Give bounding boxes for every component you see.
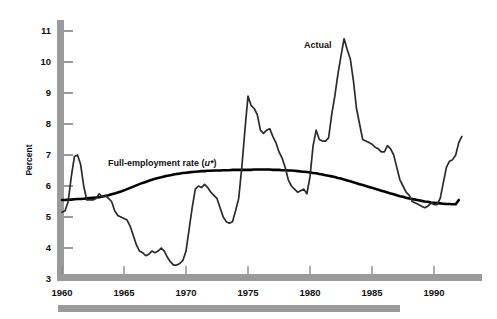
x-tick-label-1980: 1980 [299,287,320,298]
x-axis-bar [57,274,482,281]
chart-canvas: 11 10 9 8 7 6 5 4 3 1960 1965 1970 1975 … [0,0,497,319]
y-tick-label-10: 10 [40,56,51,67]
y-axis-bar [57,20,64,281]
x-tick-label-1985: 1985 [361,287,383,298]
y-tick-label-11: 11 [41,25,52,36]
chart-figure: 11 10 9 8 7 6 5 4 3 1960 1965 1970 1975 … [0,0,497,319]
y-tick-label-3: 3 [46,273,51,284]
y-tick-label-5: 5 [46,211,52,222]
y-tick-label-6: 6 [46,180,51,191]
full-employment-series-label: Full-employment rate (u*) [108,158,217,168]
y-tick-label-7: 7 [46,149,51,160]
y-tick-label-9: 9 [46,87,51,98]
full-employment-label-post: ) [214,158,217,168]
y-axis-title: Percent [24,144,34,175]
y-tick-label-8: 8 [46,118,51,129]
x-tick-label-1960: 1960 [51,287,72,298]
footer-bar [58,305,400,312]
x-tick-marks [62,266,434,274]
y-tick-label-4: 4 [46,242,52,253]
x-tick-label-1970: 1970 [175,287,196,298]
full-employment-label-pre: Full-employment rate ( [108,158,205,168]
actual-unemployment-line [62,39,462,265]
actual-series-label: Actual [304,40,332,50]
x-tick-label-1975: 1975 [237,287,259,298]
x-tick-label-1965: 1965 [113,287,135,298]
x-tick-label-1990: 1990 [423,287,444,298]
y-tick-marks [64,31,73,248]
